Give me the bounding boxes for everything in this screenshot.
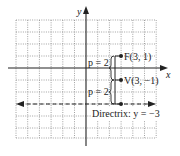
- brace-upper-label: p = 2: [88, 57, 109, 68]
- brace-lower-label: p = 2: [88, 86, 109, 97]
- vertex-label: V(3, −1): [124, 75, 159, 87]
- directrix-label: Directrix: y = −3: [92, 108, 160, 119]
- directrix-arrow-right-icon: [148, 101, 156, 107]
- directrix-arrow-left-icon: [16, 101, 24, 107]
- directrix-point: [119, 102, 123, 106]
- focus-label: F(3, 1): [124, 51, 151, 63]
- diagram-canvas: x y F(3, 1) V(3, −1) p = 2 p = 2 Directr…: [0, 0, 180, 156]
- focus-point: [119, 54, 123, 58]
- x-axis-label: x: [165, 69, 171, 80]
- y-axis-arrow-icon: [83, 6, 89, 14]
- vertex-point: [119, 78, 123, 82]
- y-axis-label: y: [76, 6, 82, 17]
